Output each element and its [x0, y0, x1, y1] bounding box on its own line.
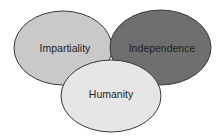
principles-venn-diagram: Impartiality Independence Humanity [0, 0, 223, 139]
humanity-label: Humanity [89, 88, 134, 100]
ellipse-group-humanity: Humanity [61, 60, 161, 132]
independence-label: Independence [129, 42, 196, 54]
impartiality-label: Impartiality [40, 42, 92, 54]
